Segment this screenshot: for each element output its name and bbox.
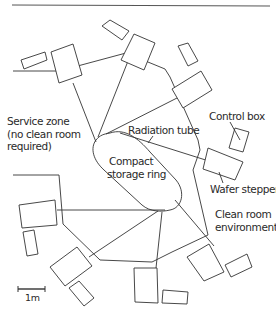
- top-rule: [12, 5, 270, 6]
- service-zone-line-1: Service zone: [7, 115, 81, 128]
- equipment-box: [121, 34, 155, 70]
- equipment-box: [162, 290, 188, 304]
- equipment-box: [19, 200, 57, 228]
- control-box: [229, 128, 249, 152]
- wafer-stepper-label: Wafer stepper: [210, 183, 276, 196]
- control-box-upper: [178, 43, 198, 66]
- clean-room-label: Clean room environment: [215, 208, 276, 233]
- equipment-box: [187, 244, 224, 281]
- compact-storage-ring-label: Compact storage ring: [107, 155, 166, 180]
- ring-label-line-1: Compact: [107, 155, 166, 168]
- equipment-box: [172, 71, 212, 108]
- clean-room-line-2: environment: [215, 221, 276, 234]
- service-zone-line-3: required): [7, 140, 81, 153]
- radiation-tube-label: Radiation tube: [128, 124, 199, 137]
- equipment-box: [23, 230, 38, 256]
- control-box-label: Control box: [209, 110, 265, 123]
- beamline-7: [156, 212, 162, 268]
- beamline-2: [98, 56, 130, 137]
- clean-room-line-1: Clean room: [215, 208, 276, 221]
- equipment-box: [134, 268, 158, 303]
- equipment-box: [102, 20, 129, 40]
- equipment-box: [225, 254, 252, 277]
- clean-room-wall-right: [172, 150, 208, 252]
- radiation-tube-leader: [148, 136, 153, 143]
- beamline-8: [175, 200, 214, 246]
- beamline-6: [89, 211, 158, 257]
- service-zone-label: Service zone (no clean room required): [7, 115, 81, 153]
- service-zone-line-2: (no clean room: [7, 128, 81, 141]
- equipment-box: [51, 44, 82, 83]
- scale-bar-label: 1m: [25, 292, 40, 305]
- equipment-box: [50, 247, 92, 286]
- equipment-box: [21, 52, 47, 69]
- wafer-stepper: [203, 148, 243, 180]
- equipment-box: [69, 281, 94, 306]
- ring-label-line-2: storage ring: [107, 168, 166, 181]
